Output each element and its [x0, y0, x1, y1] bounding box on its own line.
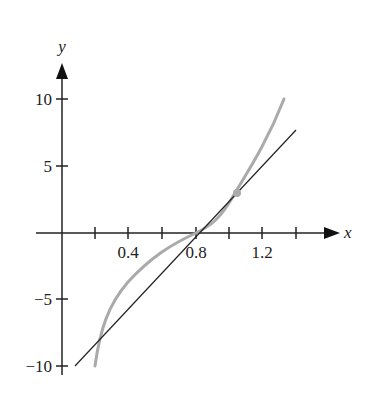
tangency-point — [233, 189, 241, 197]
y-axis-label: y — [56, 37, 66, 56]
x-tick-label: 0.4 — [117, 243, 139, 262]
y-tick-label: −5 — [34, 290, 52, 309]
y-tick-label: 10 — [35, 90, 52, 109]
x-tick-label: 1.2 — [251, 243, 272, 262]
x-axis-arrow-icon — [324, 227, 340, 239]
x-axis-label: x — [343, 223, 352, 242]
chart: 0.4 0.8 1.2 10 5 −5 −10 y x — [0, 0, 366, 409]
y-tick-label: −10 — [25, 357, 52, 376]
y-axis-arrow-icon — [56, 63, 68, 79]
x-tick-label: 0.8 — [185, 243, 206, 262]
y-tick-label: 5 — [44, 157, 53, 176]
